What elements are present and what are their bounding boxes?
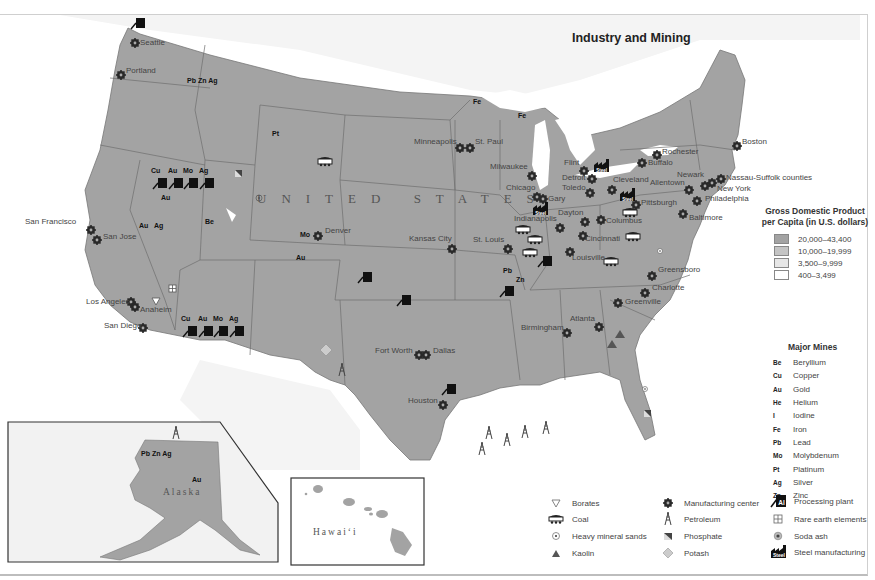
gdp-legend-subtitle: per Capita (in U.S. dollars) [760,217,870,228]
alaska-mine-label: Au [192,476,201,483]
phosphate-icon [660,530,676,542]
city-label: Denver [325,226,351,235]
us-map: Steel [0,0,875,580]
country-label: UNITED STATES [257,191,549,207]
city-label: Greensboro [658,265,700,274]
city-label: Nassau-Suffolk counties [726,173,812,182]
potash-diamond-icon [660,547,676,559]
city-label: Portland [126,66,156,75]
mine-legend-row: FeIron [773,422,873,435]
mine-label: Au [139,222,148,229]
mine-label: Au [161,194,170,201]
mine-abbr: Be [773,359,793,366]
mine-label: Pb [503,267,512,274]
symbol-legend: Borates Coal Heavy mineral sands Kaolin … [548,497,868,573]
gdp-range-row: 400–3,499 [774,269,870,281]
gdp-legend-title: Gross Domestic Product [760,206,870,217]
city-label: Boston [742,137,767,146]
city-label: Flint [564,158,579,167]
city-label: Kansas City [409,234,452,243]
legend-coal: Coal [548,513,588,525]
legend-heavy-mineral-sands: Heavy mineral sands [548,530,647,542]
city-label: Indianapolis [514,214,557,223]
mine-abbr: Pt [773,466,793,473]
mine-legend-row: HeHelium [773,396,873,409]
range-label: 20,000–43,400 [798,235,851,244]
mine-label: Ag [229,315,238,322]
mine-label: Ag [199,167,208,174]
mine-legend-row: AuGold [773,383,873,396]
mine-label: Pb Zn Ag [187,77,217,84]
rare-earth-icon [770,513,786,525]
city-label: Buffalo [648,158,673,167]
mine-label: Fe [518,112,526,119]
svg-text:Al: Al [778,499,785,506]
mine-name: Silver [793,478,813,487]
gdp-range-row: 10,000–19,999 [774,245,870,257]
borates-triangle-icon [548,497,564,509]
coal-car-icon [548,513,564,525]
legend-steel-manufacturing: Steel Steel manufacturing [770,546,865,558]
range-label: 10,000–19,999 [798,247,851,256]
city-label: Milwaukee [490,162,528,171]
mine-abbr: Cu [773,372,793,379]
kaolin-triangle-icon [548,547,564,559]
city-label: St. Paul [475,137,503,146]
processing-plant-icon: Al [770,495,786,507]
svg-text:Steel: Steel [773,552,786,558]
legend-processing-plant: Al Processing plant [770,495,853,507]
legend-potash: Potash [660,547,709,559]
mine-name: Beryllium [793,358,826,367]
mine-name: Platinum [793,465,824,474]
mine-abbr: Au [773,386,793,393]
city-label: Minneapolis [414,137,457,146]
city-label: Rochester [662,147,698,156]
gdp-range-row: 3,500–9,999 [774,257,870,269]
city-label: Columbus [606,216,642,225]
gdp-range-row: 20,000–43,400 [774,233,870,245]
city-label: Gary [548,194,565,203]
legend-borates: Borates [548,497,600,509]
city-label: Greenville [625,297,661,306]
mine-label: Pt [272,130,279,137]
mine-legend-row: PtPlatinum [773,462,873,475]
mine-name: Gold [793,385,810,394]
mine-name: Helium [793,398,818,407]
hawaii-label: Hawai‘i [313,527,358,537]
mine-label: Au [168,167,177,174]
soda-ash-icon [770,530,786,542]
mine-abbr: Fe [773,426,793,433]
mine-name: Molybdenum [793,451,839,460]
city-label: St. Louis [473,235,504,244]
city-label: Cleveland [613,175,649,184]
city-label: New York [717,184,751,193]
mine-label: Fe [473,98,481,105]
mine-legend-row: CuCopper [773,369,873,382]
alaska-label: Alaska [163,487,201,497]
city-label: Seattle [140,38,165,47]
mine-name: Lead [793,438,811,447]
city-label: San Francisco [25,217,76,226]
mine-name: Iodine [793,411,815,420]
city-label: Dayton [558,208,583,217]
map-title: Industry and Mining [572,31,691,45]
mine-legend-row: IIodine [773,409,873,422]
city-label: Birmingham [521,323,564,332]
mine-label: Cu [181,315,190,322]
city-label: Detroit [562,173,586,182]
gdp-legend: Gross Domestic Product per Capita (in U.… [760,206,870,281]
mine-label: Mo [300,231,310,238]
city-label: Dallas [433,346,455,355]
mine-legend-row: PbLead [773,436,873,449]
swatch-low [774,258,789,268]
hawaii-inset [291,478,424,565]
steel-factory-icon: Steel [770,546,786,558]
mine-name: Iron [793,425,807,434]
swatch-lowest [774,270,789,280]
petroleum-derrick-icon [660,513,676,525]
major-mines-legend: Major Mines BeBerylliumCuCopperAuGoldHeH… [773,342,873,502]
mine-abbr: He [773,399,793,406]
city-label: Los Angeles [86,297,130,306]
city-label: Chicago [506,183,535,192]
mine-abbr: Mo [773,452,793,459]
